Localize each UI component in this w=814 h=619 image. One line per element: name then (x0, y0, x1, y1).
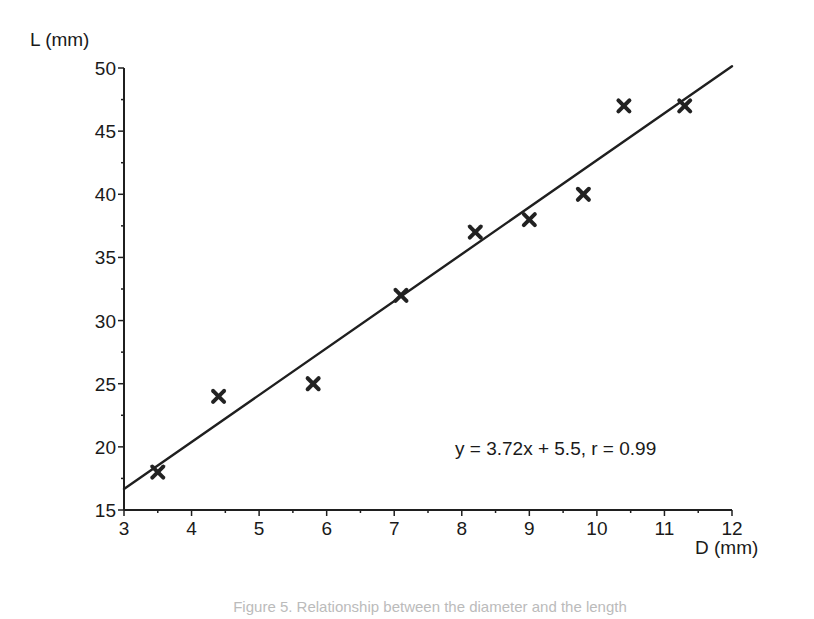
x-tick-label: 8 (456, 518, 467, 539)
x-tick-label: 9 (524, 518, 535, 539)
x-tick-label: 7 (389, 518, 400, 539)
y-axis-title: L (mm) (30, 29, 89, 50)
regression-equation: y = 3.72x + 5.5, r = 0.99 (455, 438, 656, 459)
data-point-marker (578, 189, 589, 200)
figure-caption: Figure 5. Relationship between the diame… (150, 598, 710, 619)
data-point-marker (524, 214, 535, 225)
y-tick-label: 45 (95, 121, 116, 142)
data-points (152, 100, 690, 477)
data-point-marker (679, 100, 690, 111)
y-tick-label: 35 (95, 247, 116, 268)
regression-line (124, 66, 732, 489)
x-tick-label: 12 (721, 518, 742, 539)
ticks: 15202530354045503456789101112 (95, 58, 743, 539)
x-tick-label: 4 (186, 518, 197, 539)
y-tick-label: 50 (95, 58, 116, 79)
x-tick-label: 3 (119, 518, 130, 539)
y-tick-label: 20 (95, 437, 116, 458)
data-point-marker (152, 467, 163, 478)
data-point-marker (395, 290, 406, 301)
x-tick-label: 6 (321, 518, 332, 539)
x-tick-label: 10 (586, 518, 607, 539)
y-tick-label: 30 (95, 311, 116, 332)
x-tick-label: 5 (254, 518, 265, 539)
x-axis-title: D (mm) (695, 537, 758, 558)
y-tick-label: 15 (95, 500, 116, 521)
x-tick-label: 11 (655, 518, 675, 539)
y-tick-label: 25 (95, 374, 116, 395)
data-point-marker (618, 100, 629, 111)
data-point-marker (308, 378, 319, 389)
data-point-marker (213, 391, 224, 402)
y-tick-label: 40 (95, 184, 116, 205)
data-point-marker (470, 227, 481, 238)
